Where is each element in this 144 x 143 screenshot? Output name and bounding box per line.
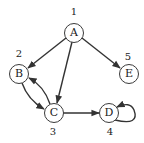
edge-a-to-e	[82, 38, 120, 68]
graph-svg	[0, 0, 144, 143]
node-b	[10, 65, 29, 84]
node-e	[120, 65, 139, 84]
graph-diagram: A B C D E 1 2 3 4 5	[0, 0, 144, 143]
node-d	[100, 104, 119, 123]
edge-a-to-b	[28, 38, 66, 68]
node-a	[65, 24, 84, 43]
edge-a-to-c	[57, 42, 72, 103]
node-c	[45, 104, 64, 123]
